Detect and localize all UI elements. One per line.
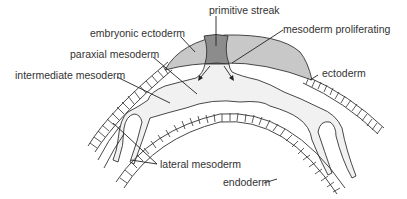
embryonic-ectoderm bbox=[165, 35, 312, 80]
label-mesoderm-proliferating: mesoderm proliferating bbox=[283, 23, 391, 35]
label-endoderm: endoderm bbox=[223, 176, 271, 188]
label-ectoderm: ectoderm bbox=[322, 67, 366, 79]
embryo-diagram: primitive streak embryonic ectoderm meso… bbox=[0, 0, 407, 199]
label-embryonic-ectoderm: embryonic ectoderm bbox=[90, 27, 185, 39]
label-primitive-streak: primitive streak bbox=[209, 4, 280, 16]
label-intermediate-mesoderm: intermediate mesoderm bbox=[15, 69, 126, 81]
label-lateral-mesoderm: lateral mesoderm bbox=[160, 158, 241, 170]
primitive-streak bbox=[204, 35, 229, 65]
label-paraxial-mesoderm: paraxial mesoderm bbox=[70, 48, 160, 60]
